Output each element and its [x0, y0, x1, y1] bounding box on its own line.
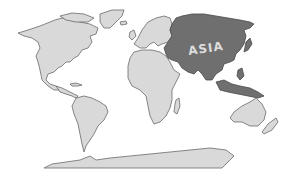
region-greenland: [100, 10, 124, 28]
region-australia: [230, 98, 266, 126]
region-southeast-asia-islands: [216, 80, 264, 98]
region-antarctica: [44, 148, 234, 168]
region-new-zealand: [262, 118, 278, 134]
region-iceland: [120, 21, 127, 25]
region-africa: [128, 50, 180, 124]
world-map: ASIA: [0, 0, 293, 181]
region-british-isles: [129, 30, 136, 40]
region-philippines: [237, 68, 244, 80]
region-central-america: [56, 86, 78, 98]
region-madagascar: [174, 98, 180, 114]
region-south-america: [72, 96, 108, 152]
region-caribbean: [70, 83, 82, 86]
region-europe: [134, 16, 172, 48]
region-north-america: [18, 18, 98, 90]
